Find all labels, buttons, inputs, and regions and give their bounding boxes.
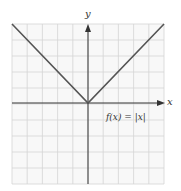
y-axis-label: y <box>85 9 91 19</box>
function-label: f(x) = |x| <box>106 113 146 122</box>
x-axis-label: x <box>167 97 173 107</box>
graph-canvas <box>0 0 181 191</box>
